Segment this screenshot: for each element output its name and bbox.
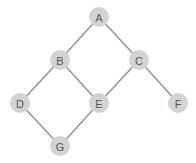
node-d: D bbox=[10, 93, 30, 113]
node-label: D bbox=[16, 98, 24, 110]
node-a: A bbox=[89, 7, 109, 27]
nodes-layer: ABCDEFG bbox=[10, 7, 188, 156]
node-e: E bbox=[89, 93, 109, 113]
node-b: B bbox=[50, 50, 70, 70]
node-label: G bbox=[56, 141, 65, 153]
node-label: F bbox=[175, 98, 182, 110]
node-label: C bbox=[135, 55, 143, 67]
graph-diagram: ABCDEFG bbox=[0, 0, 196, 163]
node-g: G bbox=[50, 136, 70, 156]
edges-layer bbox=[20, 17, 178, 146]
node-label: A bbox=[95, 12, 103, 24]
node-c: C bbox=[129, 50, 149, 70]
node-label: B bbox=[56, 55, 63, 67]
node-f: F bbox=[168, 93, 188, 113]
node-label: E bbox=[95, 98, 102, 110]
